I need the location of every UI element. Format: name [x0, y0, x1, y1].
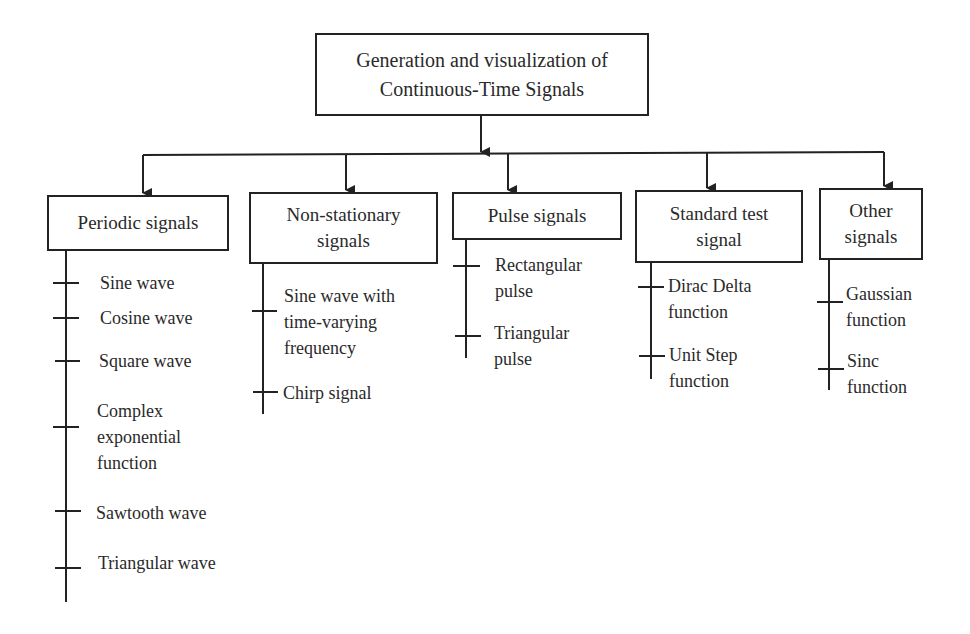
list-item-cosine-wave: Cosine wave	[100, 305, 192, 331]
list-item-unit-step: Unit Step function	[669, 342, 738, 394]
root-title: Generation and visualization of Continuo…	[356, 46, 608, 104]
list-item-triangular-wave: Triangular wave	[98, 550, 216, 576]
category-non-stationary-signals: Non-stationary signals	[249, 192, 438, 264]
list-item-complex-exponential: Complex exponential function	[97, 398, 181, 476]
category-label: Periodic signals	[78, 210, 199, 236]
category-pulse-signals: Pulse signals	[452, 192, 622, 240]
list-item-sine-wave-time-varying: Sine wave with time-varying frequency	[284, 283, 395, 361]
list-item-gaussian-function: Gaussian function	[846, 281, 912, 333]
category-standard-test-signal: Standard test signal	[635, 190, 803, 263]
list-item-sine-wave: Sine wave	[100, 270, 174, 296]
category-label: Standard test signal	[670, 201, 769, 253]
root-node: Generation and visualization of Continuo…	[315, 33, 649, 116]
category-label: Other signals	[845, 198, 898, 250]
list-item-dirac-delta: Dirac Delta function	[668, 273, 751, 325]
list-item-rectangular-pulse: Rectangular pulse	[495, 252, 582, 304]
list-item-chirp-signal: Chirp signal	[283, 380, 372, 406]
list-item-sinc-function: Sinc function	[847, 348, 907, 400]
category-periodic-signals: Periodic signals	[47, 195, 229, 251]
category-label: Pulse signals	[488, 203, 587, 229]
list-item-sawtooth-wave: Sawtooth wave	[96, 500, 206, 526]
list-item-square-wave: Square wave	[99, 348, 191, 374]
list-item-triangular-pulse: Triangular pulse	[494, 320, 569, 372]
category-label: Non-stationary signals	[287, 202, 401, 254]
category-other-signals: Other signals	[819, 188, 923, 260]
